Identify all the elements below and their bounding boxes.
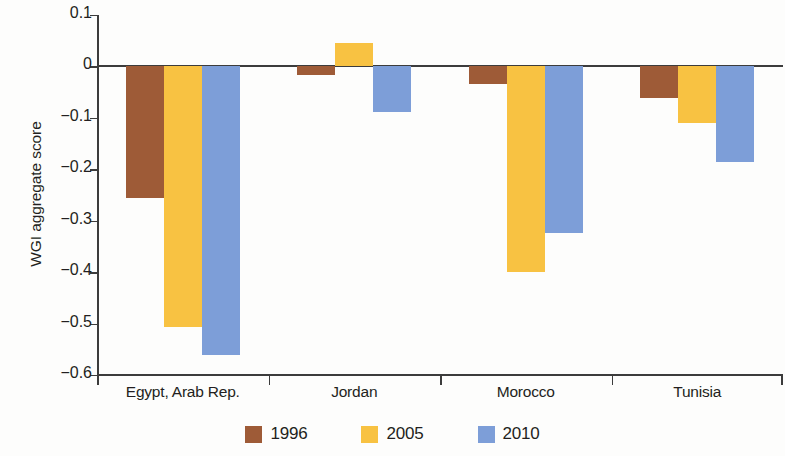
bar [335,43,373,66]
y-tick-label: −0.2 [60,158,92,176]
bar [469,66,507,84]
x-axis-label: Egypt, Arab Rep. [97,383,269,401]
legend-label: 2010 [503,424,540,444]
y-tick-label: −0.4 [60,261,92,279]
y-tick-label: −0.1 [60,107,92,125]
legend-item: 1996 [245,424,307,444]
x-axis-label: Morocco [440,383,612,401]
y-tick-label: 0 [83,55,92,73]
legend-item: 2005 [361,424,423,444]
y-axis-line [97,15,99,375]
legend-label: 2005 [386,424,423,444]
y-axis-title: WGI aggregate score [27,94,45,294]
plot-area: 0.10−0.1−0.2−0.3−0.4−0.5−0.6 [97,15,783,375]
bar [297,66,335,75]
x-axis-label: Jordan [269,383,441,401]
chart-legend: 199620052010 [0,424,785,444]
legend-label: 1996 [270,424,307,444]
bar [202,66,240,355]
legend-item: 2010 [478,424,540,444]
bar [373,66,411,112]
legend-swatch-icon [361,426,378,443]
legend-swatch-icon [478,426,495,443]
y-tick-label: −0.6 [60,364,92,382]
x-axis-label: Tunisia [612,383,784,401]
bar [678,66,716,123]
bar [164,66,202,327]
y-tick-label: 0.1 [70,4,92,22]
bar [126,66,164,198]
bar [640,66,678,98]
bar-chart: WGI aggregate score 0.10−0.1−0.2−0.3−0.4… [0,0,785,456]
y-tick-label: −0.5 [60,313,92,331]
y-tick-label: −0.3 [60,210,92,228]
bar [545,66,583,233]
bar [716,66,754,161]
bar [507,66,545,272]
legend-swatch-icon [245,426,262,443]
